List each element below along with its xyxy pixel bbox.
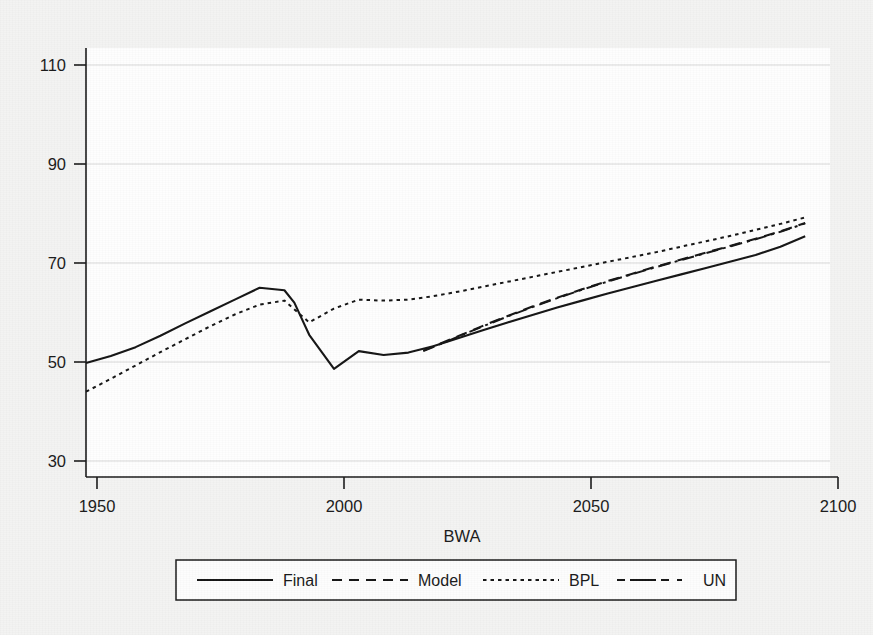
- legend-label-bpl: BPL: [569, 572, 599, 589]
- line-chart: 110 90 70 50 30 1950 2000 2050 2100 BWA: [0, 0, 873, 635]
- legend-label-final: Final: [283, 572, 318, 589]
- chart-legend: Final Model BPL UN: [176, 560, 736, 600]
- x-tick-label-2100: 2100: [820, 497, 857, 515]
- y-tick-label-70: 70: [48, 254, 66, 272]
- y-tick-labels: 110 90 70 50 30: [40, 56, 66, 470]
- legend-label-model: Model: [418, 572, 462, 589]
- x-axis-title: BWA: [444, 527, 481, 545]
- y-tick-label-30: 30: [48, 452, 66, 470]
- x-tick-label-2000: 2000: [326, 497, 363, 515]
- x-tick-marks: [97, 477, 838, 489]
- x-tick-label-1950: 1950: [79, 497, 116, 515]
- y-tick-label-50: 50: [48, 353, 66, 371]
- chart-figure: 110 90 70 50 30 1950 2000 2050 2100 BWA: [0, 0, 873, 635]
- legend-label-un: UN: [703, 572, 726, 589]
- y-tick-label-110: 110: [40, 56, 66, 74]
- x-tick-label-2050: 2050: [573, 497, 610, 515]
- x-tick-labels: 1950 2000 2050 2100: [79, 497, 857, 515]
- y-tick-label-90: 90: [48, 155, 66, 173]
- y-tick-marks: [74, 65, 86, 461]
